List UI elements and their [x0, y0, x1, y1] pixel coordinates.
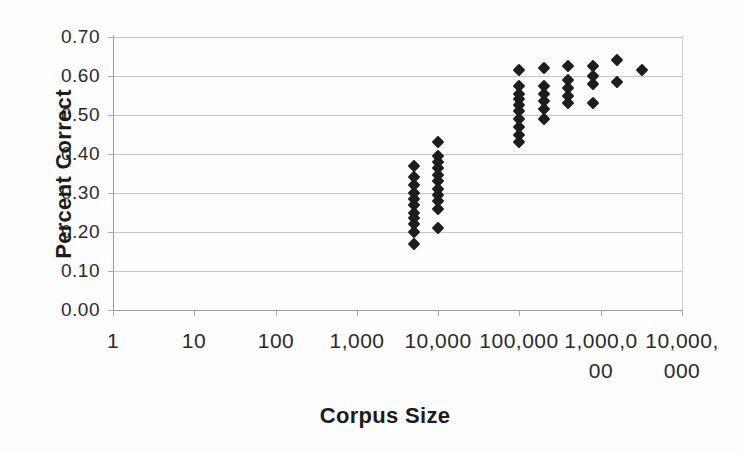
x-axis-title: Corpus Size — [320, 403, 450, 429]
y-tick-label: 0.10 — [40, 260, 100, 282]
x-axis-tick — [194, 311, 195, 316]
data-point — [586, 77, 599, 90]
x-axis-tick — [357, 311, 358, 316]
data-point — [407, 237, 420, 250]
horizontal-gridline — [113, 232, 682, 233]
horizontal-gridline — [113, 115, 682, 116]
x-tick-label: 1,000 — [329, 326, 384, 356]
y-axis-tick — [108, 37, 113, 38]
data-point — [562, 60, 575, 73]
y-axis-tick — [108, 115, 113, 116]
x-tick-label: 100,000 — [479, 326, 558, 356]
x-axis-tick — [682, 311, 683, 316]
y-axis-line — [113, 35, 114, 310]
y-axis-tick — [108, 154, 113, 155]
y-axis-tick — [108, 271, 113, 272]
data-point — [611, 75, 624, 88]
x-axis-tick — [601, 311, 602, 316]
x-tick-label: 10,000, 000 — [645, 326, 719, 386]
data-point — [513, 136, 526, 149]
y-axis-tick — [108, 310, 113, 311]
x-axis-tick — [276, 311, 277, 316]
x-tick-label: 100 — [258, 326, 295, 356]
x-tick-label: 1 — [107, 326, 119, 356]
y-axis-tick — [108, 193, 113, 194]
horizontal-gridline — [113, 154, 682, 155]
x-tick-label: 10,000 — [404, 326, 471, 356]
horizontal-gridline — [113, 271, 682, 272]
data-point — [538, 62, 551, 75]
y-tick-label: 0.60 — [40, 65, 100, 87]
x-axis-tick — [519, 311, 520, 316]
x-axis-tick — [113, 311, 114, 316]
scatter-chart: 0.000.100.200.300.400.500.600.701101001,… — [0, 0, 742, 453]
y-tick-label: 0.00 — [40, 299, 100, 321]
x-tick-label: 1,000,0 00 — [564, 326, 638, 386]
data-point — [562, 97, 575, 110]
horizontal-gridline — [113, 193, 682, 194]
plot-right-border — [682, 37, 683, 310]
y-axis-tick — [108, 76, 113, 77]
data-point — [635, 64, 648, 77]
x-axis-line — [113, 310, 683, 311]
y-axis-title: Percent Correct — [51, 89, 77, 259]
y-tick-label: 0.70 — [40, 26, 100, 48]
data-point — [407, 226, 420, 239]
data-point — [432, 202, 445, 215]
x-tick-label: 10 — [182, 326, 206, 356]
data-point — [586, 97, 599, 110]
x-axis-tick — [438, 311, 439, 316]
data-point — [432, 136, 445, 149]
y-axis-tick — [108, 232, 113, 233]
data-point — [513, 64, 526, 77]
horizontal-gridline — [113, 37, 682, 38]
data-point — [611, 54, 624, 67]
